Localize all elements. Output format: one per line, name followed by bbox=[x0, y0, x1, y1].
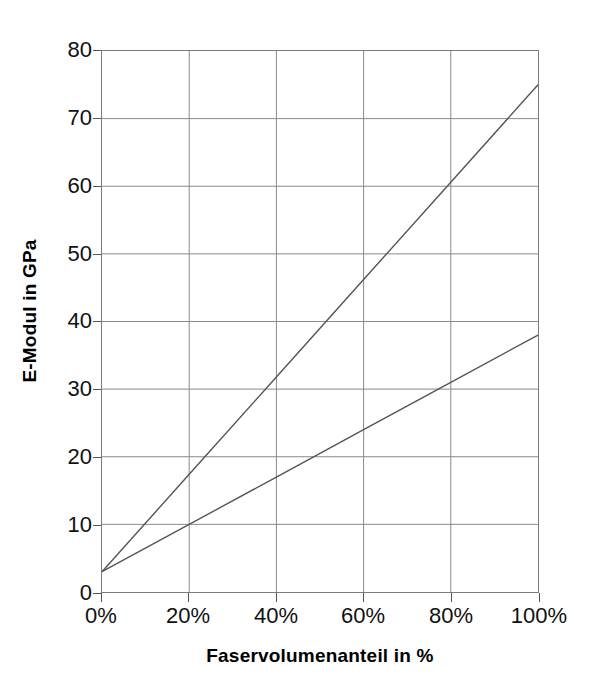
x-tick-mark-0 bbox=[101, 593, 102, 602]
series-line-0 bbox=[102, 85, 538, 572]
y-tick-label-0: 0 bbox=[36, 582, 92, 604]
x-tick-mark-60 bbox=[363, 593, 364, 602]
y-tick-label-70: 70 bbox=[36, 107, 92, 129]
y-tick-label-60: 60 bbox=[36, 175, 92, 197]
y-tick-label-20: 20 bbox=[36, 446, 92, 468]
y-tick-label-10: 10 bbox=[36, 514, 92, 536]
x-axis-title: Faservolumenanteil in % bbox=[101, 645, 539, 667]
x-tick-mark-80 bbox=[451, 593, 452, 602]
x-tick-mark-20 bbox=[188, 593, 189, 602]
x-tick-label-100: 100% bbox=[489, 604, 589, 628]
series-line-1 bbox=[102, 335, 538, 572]
x-tick-mark-40 bbox=[276, 593, 277, 602]
chart-container: 80 70 60 50 40 30 20 10 0 0% 20% 40% 60%… bbox=[0, 0, 590, 700]
y-tick-label-80: 80 bbox=[36, 39, 92, 61]
y-tick-label-50: 50 bbox=[36, 243, 92, 265]
x-tick-label-80: 80% bbox=[401, 604, 501, 628]
x-tick-label-40: 40% bbox=[226, 604, 326, 628]
x-tick-mark-100 bbox=[539, 593, 540, 602]
x-tick-label-0: 0% bbox=[51, 604, 151, 628]
x-tick-label-20: 20% bbox=[138, 604, 238, 628]
series-lines bbox=[102, 51, 538, 592]
plot-area bbox=[101, 50, 539, 593]
x-tick-label-60: 60% bbox=[313, 604, 413, 628]
y-axis-title: E-Modul in GPa bbox=[19, 201, 41, 421]
y-tick-label-40: 40 bbox=[36, 310, 92, 332]
y-tick-label-30: 30 bbox=[36, 378, 92, 400]
